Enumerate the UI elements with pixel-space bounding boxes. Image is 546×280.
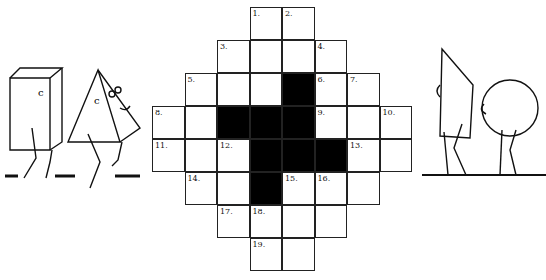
crossword-cell[interactable] bbox=[380, 139, 413, 172]
clue-number: 15. bbox=[285, 174, 298, 183]
clue-number: 6. bbox=[318, 75, 326, 84]
crossword-cell[interactable]: 5. bbox=[185, 73, 218, 106]
crossword-cell[interactable] bbox=[217, 172, 250, 205]
crossword-cell[interactable]: 14. bbox=[185, 172, 218, 205]
crossword-cell[interactable] bbox=[282, 40, 315, 73]
clue-number: 9. bbox=[318, 108, 326, 117]
black-square bbox=[250, 139, 283, 172]
crossword-cell[interactable]: 2. bbox=[282, 7, 315, 40]
crossword-cell[interactable] bbox=[185, 139, 218, 172]
crossword-cell[interactable]: 16. bbox=[315, 172, 348, 205]
crossword-cell[interactable] bbox=[250, 73, 283, 106]
clue-number: 10. bbox=[383, 108, 396, 117]
crossword-cell[interactable]: 12. bbox=[217, 139, 250, 172]
clue-number: 1. bbox=[253, 9, 261, 18]
crossword-cell[interactable] bbox=[315, 205, 348, 238]
face-letter-cube: c bbox=[38, 87, 44, 98]
clue-number: 3. bbox=[220, 42, 228, 51]
crossword-cell[interactable]: 1. bbox=[250, 7, 283, 40]
prism-and-sphere-illustration bbox=[410, 40, 546, 190]
crossword-cell[interactable]: 17. bbox=[217, 205, 250, 238]
clue-number: 11. bbox=[155, 141, 168, 150]
black-square bbox=[282, 73, 315, 106]
crossword-cell[interactable] bbox=[217, 73, 250, 106]
crossword-cell[interactable]: 15. bbox=[282, 172, 315, 205]
black-square bbox=[217, 106, 250, 139]
crossword-cell[interactable]: 6. bbox=[315, 73, 348, 106]
clue-number: 4. bbox=[318, 42, 326, 51]
crossword-cell[interactable]: 7. bbox=[347, 73, 380, 106]
clue-number: 12. bbox=[220, 141, 233, 150]
crossword-cell[interactable]: 18. bbox=[250, 205, 283, 238]
clue-number: 5. bbox=[188, 75, 196, 84]
crossword-cell[interactable]: 10. bbox=[380, 106, 413, 139]
crossword-grid: 1.2.3.4.5.6.7.8.9.10.11.12.13.14.15.16.1… bbox=[152, 7, 412, 271]
crossword-cell[interactable]: 9. bbox=[315, 106, 348, 139]
crossword-cell[interactable]: 13. bbox=[347, 139, 380, 172]
crossword-cell[interactable] bbox=[282, 205, 315, 238]
crossword-cell[interactable]: 19. bbox=[250, 238, 283, 271]
cube-and-pyramid-illustration: c c bbox=[0, 50, 150, 200]
crossword-cell[interactable] bbox=[282, 238, 315, 271]
crossword-cell[interactable]: 3. bbox=[217, 40, 250, 73]
clue-number: 14. bbox=[188, 174, 201, 183]
black-square bbox=[315, 139, 348, 172]
crossword-cell[interactable] bbox=[250, 40, 283, 73]
crossword-cell[interactable]: 8. bbox=[152, 106, 185, 139]
black-square bbox=[250, 106, 283, 139]
clue-number: 16. bbox=[318, 174, 331, 183]
clue-number: 18. bbox=[253, 207, 266, 216]
black-square bbox=[282, 139, 315, 172]
clue-number: 2. bbox=[285, 9, 293, 18]
clue-number: 13. bbox=[350, 141, 363, 150]
face-letter-pyramid: c bbox=[94, 95, 100, 106]
crossword-cell[interactable]: 4. bbox=[315, 40, 348, 73]
clue-number: 8. bbox=[155, 108, 163, 117]
black-square bbox=[282, 106, 315, 139]
clue-number: 7. bbox=[350, 75, 358, 84]
clue-number: 17. bbox=[220, 207, 233, 216]
clue-number: 19. bbox=[253, 240, 266, 249]
crossword-cell[interactable] bbox=[185, 106, 218, 139]
crossword-cell[interactable] bbox=[347, 172, 380, 205]
black-square bbox=[250, 172, 283, 205]
crossword-cell[interactable] bbox=[347, 106, 380, 139]
crossword-cell[interactable]: 11. bbox=[152, 139, 185, 172]
